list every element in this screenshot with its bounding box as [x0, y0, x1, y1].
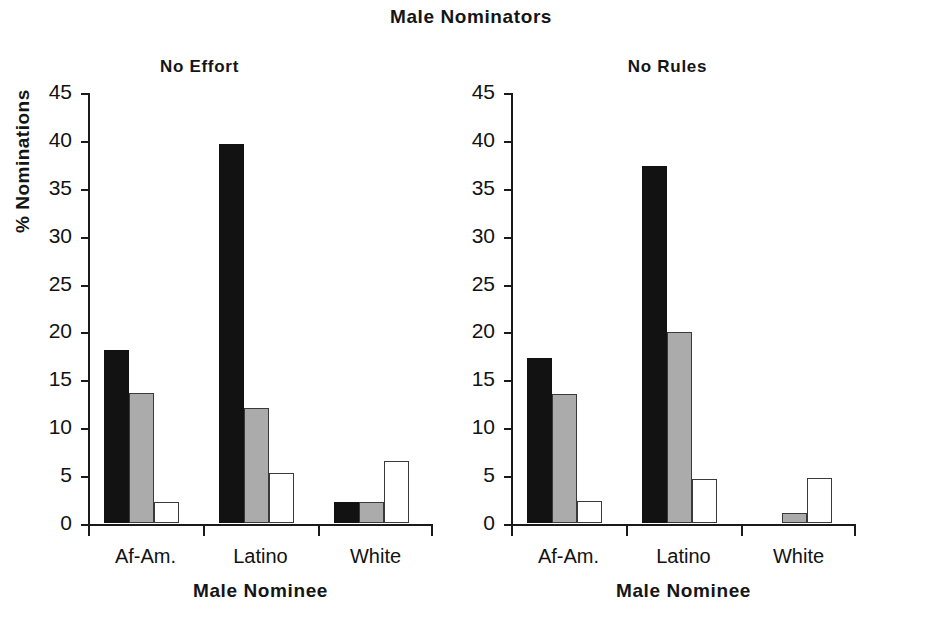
- x-axis-line: [511, 524, 856, 526]
- y-axis-tick-label: 15: [455, 368, 495, 390]
- bar: [642, 166, 667, 523]
- x-axis-tick: [431, 526, 433, 536]
- y-axis-tick-label: 45: [455, 81, 495, 103]
- y-axis-tick: 25: [504, 285, 511, 287]
- x-axis-tick: [511, 526, 513, 536]
- bar: [667, 332, 692, 523]
- y-axis-tick-label: 0: [455, 512, 495, 534]
- x-axis-tick: [741, 526, 743, 536]
- x-axis-tick: [854, 526, 856, 536]
- y-axis-tick: 20: [81, 332, 88, 334]
- bar: [244, 408, 269, 523]
- panel-title: No Rules: [432, 57, 903, 77]
- bar: [154, 502, 179, 523]
- y-axis-tick-label: 40: [455, 129, 495, 151]
- y-axis-tick: 10: [81, 428, 88, 430]
- y-axis-line: [88, 93, 90, 526]
- y-axis-tick-label: 5: [455, 464, 495, 486]
- x-axis-line: [88, 524, 433, 526]
- y-axis-tick: 5: [504, 476, 511, 478]
- y-axis-tick: 45: [504, 93, 511, 95]
- x-axis-tick: [88, 526, 90, 536]
- y-axis-tick-label: 45: [32, 81, 72, 103]
- y-axis-tick: 15: [504, 380, 511, 382]
- y-axis-tick-label: 25: [455, 273, 495, 295]
- y-axis-tick: 35: [81, 189, 88, 191]
- bar: [692, 479, 717, 523]
- bar: [359, 502, 384, 523]
- y-axis-line: [511, 93, 513, 526]
- plot-area: % Nominations Male Nominee 0510152025303…: [88, 93, 433, 525]
- x-axis-tick-label: Latino: [656, 545, 711, 567]
- y-axis-tick: 25: [81, 285, 88, 287]
- y-axis-tick-label: 10: [32, 416, 72, 438]
- x-axis-tick: [203, 526, 205, 536]
- chart-panel-no-effort: No Effort % Nominations Male Nominee 051…: [0, 0, 471, 621]
- y-axis-tick-label: 20: [455, 320, 495, 342]
- y-axis-tick: 20: [504, 332, 511, 334]
- figure-canvas: Male Nominators No Effort % Nominations …: [0, 0, 942, 621]
- chart-panel-no-rules: No Rules Male Nominee 051015202530354045…: [471, 0, 942, 621]
- y-axis-tick-label: 25: [32, 273, 72, 295]
- y-axis-tick: 35: [504, 189, 511, 191]
- y-axis-tick: 30: [504, 237, 511, 239]
- bar: [807, 478, 832, 523]
- y-axis-tick: 40: [81, 141, 88, 143]
- y-axis-tick-label: 20: [32, 320, 72, 342]
- bar: [552, 394, 577, 523]
- y-axis-tick-label: 30: [455, 225, 495, 247]
- x-axis-tick: [318, 526, 320, 536]
- panel-title: No Effort: [0, 57, 435, 77]
- bar: [782, 513, 807, 523]
- x-axis-title: Male Nominee: [88, 580, 433, 602]
- x-axis-tick-label: White: [350, 545, 401, 567]
- y-axis-tick-label: 0: [32, 512, 72, 534]
- x-axis-tick-label: Af-Am.: [115, 545, 176, 567]
- y-axis-tick: 10: [504, 428, 511, 430]
- x-axis-title: Male Nominee: [511, 580, 856, 602]
- bar: [219, 144, 244, 523]
- y-axis-tick-label: 15: [32, 368, 72, 390]
- y-axis-tick: 45: [81, 93, 88, 95]
- bar: [334, 502, 359, 523]
- y-axis-tick: 0: [504, 524, 511, 526]
- y-axis-tick-label: 30: [32, 225, 72, 247]
- plot-area: Male Nominee 051015202530354045Af-Am.Lat…: [511, 93, 856, 525]
- bar: [577, 501, 602, 523]
- bar: [104, 350, 129, 523]
- x-axis-tick-label: Latino: [233, 545, 288, 567]
- x-axis-tick-label: White: [773, 545, 824, 567]
- y-axis-tick: 5: [81, 476, 88, 478]
- y-axis-tick-label: 35: [455, 177, 495, 199]
- bar: [527, 358, 552, 523]
- y-axis-tick: 0: [81, 524, 88, 526]
- bar: [129, 393, 154, 523]
- x-axis-tick-label: Af-Am.: [538, 545, 599, 567]
- bar: [269, 473, 294, 523]
- y-axis-tick: 30: [81, 237, 88, 239]
- y-axis-title: % Nominations: [12, 89, 34, 233]
- y-axis-tick-label: 40: [32, 129, 72, 151]
- bar: [384, 461, 409, 523]
- y-axis-tick-label: 5: [32, 464, 72, 486]
- x-axis-tick: [626, 526, 628, 536]
- y-axis-tick: 40: [504, 141, 511, 143]
- y-axis-tick-label: 10: [455, 416, 495, 438]
- y-axis-tick-label: 35: [32, 177, 72, 199]
- y-axis-tick: 15: [81, 380, 88, 382]
